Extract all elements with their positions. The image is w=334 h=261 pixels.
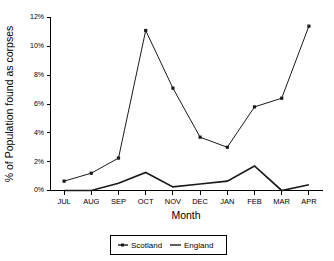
x-tick-label: OCT	[138, 197, 154, 206]
data-point-marker	[63, 180, 66, 183]
y-axis-tick-labels: 0% 2% 4% 6% 8% 10% 12%	[30, 13, 44, 193]
x-tick-label: DEC	[192, 197, 208, 206]
y-tick-label: 6%	[34, 100, 44, 107]
data-point-marker	[171, 87, 174, 90]
y-axis-ticks	[47, 18, 51, 191]
y-tick-label: 10%	[30, 42, 44, 49]
y-tick-label: 8%	[34, 71, 44, 78]
y-tick-label: 12%	[30, 13, 44, 20]
chart-canvas: 0% 2% 4% 6% 8% 10% 12% JULAUGSEPOCTNOVDE…	[0, 0, 334, 261]
x-tick-label: MAR	[273, 197, 290, 206]
data-point-marker	[90, 172, 93, 175]
x-tick-label: JAN	[220, 197, 234, 206]
x-tick-label: NOV	[165, 197, 181, 206]
data-point-marker	[280, 97, 283, 100]
x-axis-title: Month	[171, 209, 200, 221]
x-axis-tick-labels: JULAUGSEPOCTNOVDECJANFEBMARAPR	[57, 197, 317, 206]
y-tick-label: 2%	[34, 158, 44, 165]
y-tick-label: 0%	[34, 186, 44, 193]
series-line-scotland	[64, 26, 309, 181]
data-point-marker	[253, 105, 256, 108]
data-point-marker	[117, 156, 120, 159]
data-point-marker	[226, 146, 229, 149]
y-tick-label: 4%	[34, 129, 44, 136]
series-markers-scotland	[63, 25, 311, 183]
data-point-marker	[307, 25, 310, 28]
series-line-england	[64, 166, 309, 191]
legend-label-england: England	[184, 241, 213, 250]
x-tick-label: APR	[301, 197, 317, 206]
x-tick-label: AUG	[83, 197, 99, 206]
data-point-marker	[144, 29, 147, 32]
data-point-marker	[199, 136, 202, 139]
x-axis-ticks	[64, 191, 309, 195]
x-tick-label: SEP	[111, 197, 126, 206]
x-tick-label: FEB	[247, 197, 262, 206]
y-axis-title: % of Population found as corpses	[3, 26, 15, 182]
legend-label-scotland: Scotland	[131, 241, 162, 250]
line-chart: 0% 2% 4% 6% 8% 10% 12% JULAUGSEPOCTNOVDE…	[0, 0, 334, 261]
legend: Scotland England	[111, 236, 227, 255]
x-tick-label: JUL	[57, 197, 70, 206]
